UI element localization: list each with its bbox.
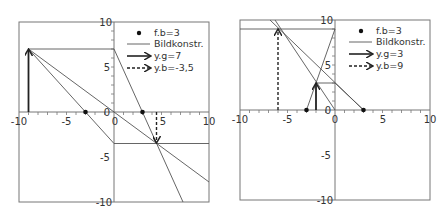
- x-tick-label: -5: [62, 116, 72, 127]
- x-tick-label: -10: [11, 116, 27, 127]
- x-tick-label: 5: [160, 116, 166, 127]
- legend-dot-icon: [137, 31, 141, 35]
- y-tick-label: 5: [104, 62, 110, 73]
- x-tick-label: -10: [232, 114, 248, 125]
- legend: f.b=3 Bildkonstr. y.g=7 y.b=-3,5: [127, 27, 204, 73]
- y-tick-label: -5: [100, 152, 110, 163]
- legend-dot-icon: [359, 29, 363, 33]
- focal-point: [304, 108, 309, 113]
- y-tick-label: -5: [321, 150, 331, 161]
- legend-label: Bildkonstr.: [376, 36, 426, 47]
- legend-label: y.g=7: [154, 50, 181, 61]
- legend: f.b=3 Bildkonstr. y.g=3 y.b=9: [349, 25, 426, 71]
- y-tick-label: -10: [317, 195, 333, 206]
- x-tick-label: 10: [424, 114, 437, 125]
- legend-label: f.b=3: [376, 25, 402, 36]
- y-tick-label: 10: [99, 17, 112, 28]
- y-tick-label: 5: [325, 60, 331, 71]
- x-tick-label: 0: [332, 114, 338, 125]
- x-tick-label: 0: [112, 116, 118, 127]
- figure: -10 -5 0 5 10 10 5 0 -5 -10 f.b=3 Bildko…: [0, 0, 447, 216]
- construction-lines: [240, 20, 364, 110]
- chart-right: -10 -5 0 5 10 10 5 0 -5 -10 f.b=3 Bildko…: [232, 15, 437, 206]
- focal-point: [361, 108, 366, 113]
- legend-label: Bildkonstr.: [154, 38, 204, 49]
- focal-point: [140, 110, 145, 115]
- y-tick-label: -10: [96, 197, 112, 208]
- x-tick-label: 10: [203, 116, 216, 127]
- y-tick-label: 0: [325, 105, 331, 116]
- legend-label: y.b=9: [376, 60, 403, 71]
- chart-left: -10 -5 0 5 10 10 5 0 -5 -10 f.b=3 Bildko…: [11, 17, 216, 208]
- legend-label: y.b=-3,5: [154, 62, 194, 73]
- legend-label: y.g=3: [376, 48, 403, 59]
- x-tick-label: 5: [380, 114, 386, 125]
- y-tick-label: 10: [320, 15, 333, 26]
- legend-label: f.b=3: [154, 27, 180, 38]
- x-tick-label: -5: [283, 114, 293, 125]
- focal-point: [83, 110, 88, 115]
